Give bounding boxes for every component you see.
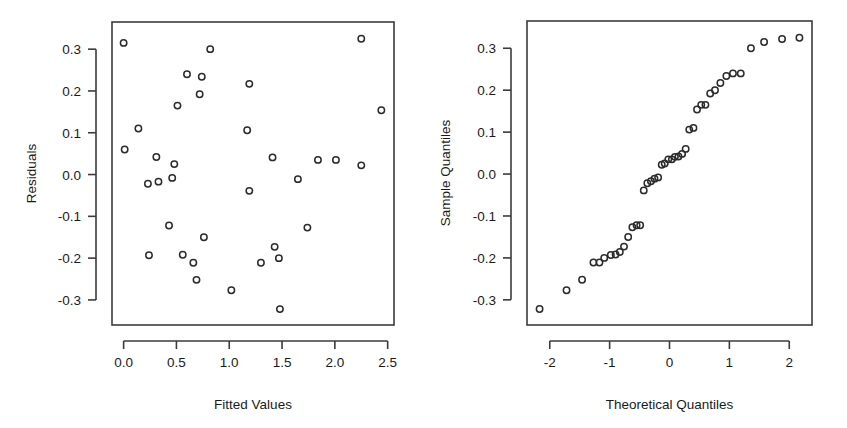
data-point: [536, 306, 542, 312]
data-point: [155, 178, 161, 184]
data-point: [748, 45, 754, 51]
data-point-group: [536, 35, 802, 313]
data-point: [120, 40, 126, 46]
data-point: [169, 175, 175, 181]
data-point: [641, 187, 647, 193]
data-point: [199, 74, 205, 80]
y-axis-tick-label: 0.1: [62, 126, 81, 141]
normal-qq-panel: -2-10120.30.20.10.0-0.1-0.2-0.3Theoretic…: [424, 0, 847, 428]
qq-plot-svg: -2-10120.30.20.10.0-0.1-0.2-0.3Theoretic…: [424, 0, 847, 428]
data-point: [184, 71, 190, 77]
x-axis-tick-label: 2: [785, 355, 793, 370]
plot-frame: [527, 21, 812, 325]
y-axis-tick-label: -0.2: [473, 251, 496, 266]
data-point: [563, 287, 569, 293]
x-axis-tick-label: -2: [544, 355, 556, 370]
data-point: [201, 234, 207, 240]
residuals-vs-fitted-panel: 0.00.51.01.52.02.50.30.20.10.0-0.1-0.2-0…: [0, 0, 424, 428]
data-point: [228, 287, 234, 293]
data-point: [358, 36, 364, 42]
data-point: [135, 125, 141, 131]
x-axis-tick-label: 1: [726, 355, 734, 370]
x-axis-tick-label: 1.5: [273, 355, 292, 370]
data-point: [730, 70, 736, 76]
data-point: [190, 260, 196, 266]
data-point: [333, 157, 339, 163]
data-point: [702, 102, 708, 108]
residuals-plot-svg: 0.00.51.01.52.02.50.30.20.10.0-0.1-0.2-0…: [0, 0, 424, 428]
x-axis-tick-label: 2.5: [378, 355, 397, 370]
data-point: [712, 87, 718, 93]
x-axis-tick-label: 0.0: [114, 355, 133, 370]
x-axis-tick-label: 0: [666, 355, 674, 370]
y-axis-tick-label: -0.1: [58, 209, 81, 224]
data-point: [145, 181, 151, 187]
x-axis-tick-label: 1.0: [220, 355, 239, 370]
data-point: [246, 188, 252, 194]
data-point: [761, 39, 767, 45]
data-point: [171, 161, 177, 167]
y-axis-tick-label: -0.3: [58, 293, 81, 308]
data-point: [153, 154, 159, 160]
data-point: [378, 107, 384, 113]
x-axis-title: Theoretical Quantiles: [606, 397, 734, 412]
y-axis-title: Sample Quantiles: [438, 119, 453, 226]
data-point: [193, 277, 199, 283]
y-axis-tick-label: 0.2: [477, 83, 496, 98]
data-point: [682, 146, 688, 152]
data-point-group: [120, 36, 384, 313]
data-point: [625, 234, 631, 240]
y-axis-tick-label: -0.2: [58, 251, 81, 266]
y-axis-tick-label: -0.1: [473, 209, 496, 224]
data-point: [146, 252, 152, 258]
y-axis-tick-label: 0.3: [477, 41, 496, 56]
data-point: [717, 80, 723, 86]
data-point: [166, 222, 172, 228]
data-point: [269, 154, 275, 160]
data-point: [779, 36, 785, 42]
data-point: [796, 35, 802, 41]
x-axis-tick-label: -1: [604, 355, 616, 370]
data-point: [180, 252, 186, 258]
data-point: [244, 127, 250, 133]
data-point: [207, 46, 213, 52]
data-point: [315, 157, 321, 163]
data-point: [723, 73, 729, 79]
data-point: [738, 70, 744, 76]
y-axis-tick-label: 0.0: [477, 167, 496, 182]
y-axis-title: Residuals: [24, 144, 39, 204]
y-axis-tick-label: 0.0: [62, 168, 81, 183]
y-axis-tick-label: 0.2: [62, 84, 81, 99]
data-point: [277, 306, 283, 312]
data-point: [358, 162, 364, 168]
data-point: [174, 102, 180, 108]
data-point: [295, 176, 301, 182]
data-point: [304, 224, 310, 230]
data-point: [579, 277, 585, 283]
y-axis-tick-label: -0.3: [473, 293, 496, 308]
data-point: [271, 244, 277, 250]
x-axis-tick-label: 2.0: [325, 355, 344, 370]
data-point: [121, 146, 127, 152]
data-point: [258, 260, 264, 266]
y-axis-tick-label: 0.1: [477, 125, 496, 140]
data-point: [196, 91, 202, 97]
data-point: [621, 243, 627, 249]
data-point: [601, 255, 607, 261]
x-axis-tick-label: 0.5: [167, 355, 186, 370]
plot-frame: [112, 22, 394, 325]
y-axis-tick-label: 0.3: [62, 42, 81, 57]
data-point: [246, 81, 252, 87]
x-axis-title: Fitted Values: [214, 397, 292, 412]
data-point: [276, 255, 282, 261]
